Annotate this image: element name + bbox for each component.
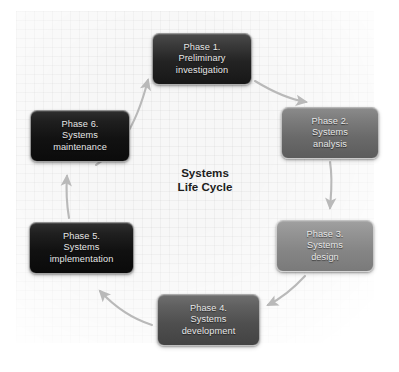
phase-label-4: Phase 4. Systems development [182,303,236,338]
phase-label-3: Phase 3. Systems design [306,229,343,264]
phase-box-2[interactable]: Phase 2. Systems analysis [281,107,379,159]
phase-label-1: Phase 1. Preliminary investigation [176,42,228,77]
arrow-4-to-5 [100,291,152,325]
phase-label-5: Phase 5. Systems implementation [50,231,114,266]
phase-box-6[interactable]: Phase 6. Systems maintenance [30,110,130,162]
arrow-1-to-2 [255,81,306,102]
phase-label-6: Phase 6. Systems maintenance [53,119,107,154]
phase-box-5[interactable]: Phase 5. Systems implementation [29,222,134,274]
arrow-5-to-6 [66,176,69,218]
arrow-2-to-3 [330,162,332,208]
phase-box-1[interactable]: Phase 1. Preliminary investigation [152,33,252,85]
phase-label-2: Phase 2. Systems analysis [311,116,348,151]
diagram-title: Systems Life Cycle [150,166,260,194]
phase-box-4[interactable]: Phase 4. Systems development [157,294,260,346]
phase-box-3[interactable]: Phase 3. Systems design [276,220,374,272]
arrow-3-to-4 [268,276,305,305]
systems-life-cycle-diagram: Phase 1. Preliminary investigation Phase… [0,0,399,372]
